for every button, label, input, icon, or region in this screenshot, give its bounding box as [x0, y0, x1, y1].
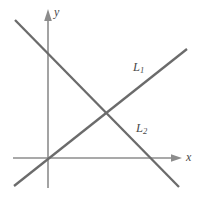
- line-l1-label-subscript: 1: [140, 65, 144, 75]
- line-l2-label-text: L: [136, 121, 143, 135]
- line-graph-figure: y x L1 L2: [0, 0, 204, 202]
- x-axis-label: x: [186, 151, 191, 163]
- y-axis-label: y: [54, 6, 59, 18]
- line-l2-label: L2: [136, 122, 147, 135]
- x-axis-arrow-icon: [171, 154, 182, 162]
- line-l2-label-subscript: 2: [143, 126, 147, 136]
- line-l2: [15, 20, 179, 187]
- line-l1-label: L1: [133, 61, 144, 74]
- line-l1-label-text: L: [133, 60, 140, 74]
- y-axis-arrow-icon: [44, 9, 52, 21]
- line-l1: [14, 49, 187, 186]
- coordinate-plane-svg: [0, 0, 204, 202]
